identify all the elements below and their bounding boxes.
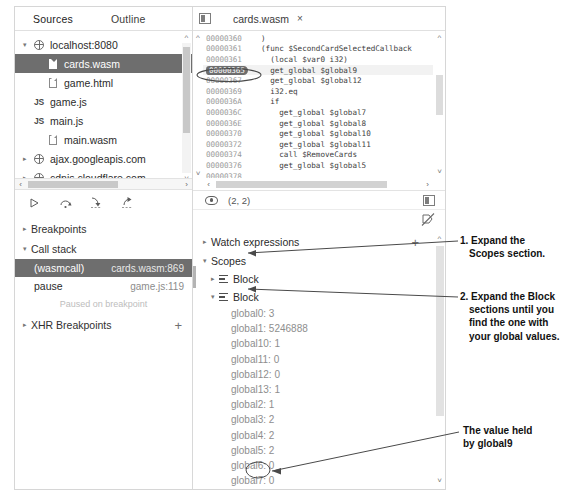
chevron-right-icon[interactable]: ▸	[19, 321, 31, 329]
code-line[interactable]: 00000374 call $RemoveCards	[203, 150, 433, 161]
global-entry[interactable]: global0: 3	[193, 306, 445, 321]
scroll-up-icon[interactable]: ^	[182, 33, 191, 42]
code-line-current[interactable]: 00000365 get_global $global9	[203, 65, 433, 76]
file-tree[interactable]: ▾ localhost:8080 cards.wasm game.html JS…	[15, 31, 192, 189]
code-text: )	[261, 34, 266, 43]
global-entry[interactable]: global8: 0	[193, 488, 445, 489]
tab-sources[interactable]: Sources	[33, 13, 73, 25]
scroll-down-icon[interactable]: ˅	[434, 476, 445, 485]
global-entry[interactable]: global12: 0	[193, 367, 445, 382]
scroll-down-icon[interactable]: ˅	[434, 167, 445, 176]
scopes-header[interactable]: ▾ Scopes	[193, 252, 445, 270]
tree-item-game-js[interactable]: JS game.js	[15, 92, 192, 111]
tab-cards-wasm[interactable]: cards.wasm ×	[219, 13, 303, 25]
chevron-right-icon[interactable]: ▸	[199, 238, 211, 246]
code-line[interactable]: 00000378	[203, 171, 433, 178]
scroll-left-icon[interactable]: ‹	[203, 180, 214, 189]
chevron-right-icon[interactable]: ▸	[19, 155, 31, 163]
tab-outline[interactable]: Outline	[111, 13, 146, 25]
code-line[interactable]: 0000036A if	[203, 97, 433, 108]
global-value: 0	[269, 475, 275, 486]
scope-block-collapsed[interactable]: ▸ Block	[193, 270, 445, 288]
code-line[interactable]: 00000361(func $SecondCardSelectedCallbac…	[203, 44, 433, 55]
chevron-down-icon[interactable]: ▾	[19, 41, 31, 49]
code-line[interactable]: 00000360)	[203, 33, 433, 44]
global-entry[interactable]: global10: 1	[193, 336, 445, 351]
call-stack-location: cards.wasm:869	[111, 263, 184, 274]
editor-horizontal-scrollbar[interactable]: ‹ ›	[203, 179, 433, 190]
code-lines[interactable]: 00000360) 00000361(func $SecondCardSelec…	[203, 33, 433, 178]
code-line[interactable]: 0000036E get_global $global8	[203, 118, 433, 129]
deactivate-breakpoints-icon[interactable]	[421, 213, 435, 231]
global-name: global11	[231, 354, 268, 365]
code-line[interactable]: 00000369 i32.eq	[203, 86, 433, 97]
globals-list: global0: 3 global1: 5246888 global10: 1 …	[193, 306, 445, 489]
code-line[interactable]: 00000367 get_global $global12	[203, 75, 433, 86]
show-navigator-icon[interactable]	[199, 13, 211, 24]
editor-gutter-scrollbar[interactable]: ^ ˅	[193, 31, 203, 190]
tree-item-label: main.wasm	[64, 134, 117, 146]
scroll-right-icon[interactable]: ›	[181, 180, 192, 189]
step-over-icon[interactable]	[58, 196, 72, 210]
code-line[interactable]: 00000361 (local $var0 i32)	[203, 54, 433, 65]
watch-expressions-header[interactable]: ▸ Watch expressions +	[193, 232, 445, 252]
code-line[interactable]: 0000036C get_global $global7	[203, 107, 433, 118]
tree-item-label: main.js	[50, 115, 83, 127]
global-entry[interactable]: global5: 2	[193, 443, 445, 458]
code-address: 00000361	[203, 55, 261, 64]
global-entry[interactable]: global2: 1	[193, 397, 445, 412]
call-stack-section-header[interactable]: ▾ Call stack	[15, 239, 192, 259]
global-entry[interactable]: global13: 1	[193, 382, 445, 397]
chevron-down-icon[interactable]: ▾	[199, 257, 211, 265]
chevron-right-icon[interactable]: ▸	[19, 225, 31, 233]
step-into-icon[interactable]	[89, 196, 103, 210]
global-entry[interactable]: global6: 0	[193, 458, 445, 473]
scope-block-label: Block	[233, 291, 259, 303]
tree-item-ajax-googleapis[interactable]: ▸ ajax.googleapis.com	[15, 149, 192, 168]
tree-item-cards-wasm[interactable]: cards.wasm	[15, 54, 192, 73]
eye-icon[interactable]	[205, 196, 218, 205]
close-icon[interactable]: ×	[297, 13, 303, 24]
show-debugger-sidebar-icon[interactable]	[423, 195, 435, 206]
global-entry[interactable]: global3: 2	[193, 412, 445, 427]
scroll-up-icon[interactable]: ^	[193, 33, 203, 42]
play-icon[interactable]	[27, 196, 41, 210]
chevron-down-icon[interactable]: ▾	[19, 245, 31, 253]
breakpoints-section-header[interactable]: ▸ Breakpoints	[15, 219, 192, 239]
editor-vertical-scrollbar[interactable]: ^ ˅	[434, 31, 445, 190]
tree-item-main-wasm[interactable]: main.wasm	[15, 130, 192, 149]
scope-pane[interactable]: ▸ Watch expressions + ▾ Scopes ▸ Block ▾	[193, 232, 445, 489]
scroll-down-icon[interactable]: ˅	[193, 169, 203, 178]
global-entry[interactable]: global11: 0	[193, 352, 445, 367]
file-tree-vertical-scrollbar[interactable]: ^ ˅	[182, 33, 191, 183]
code-line[interactable]: 00000372 get_global $global11	[203, 139, 433, 150]
file-tree-horizontal-scrollbar[interactable]: ‹ ›	[15, 178, 192, 189]
tree-item-localhost[interactable]: ▾ localhost:8080	[15, 35, 192, 54]
scope-block-expanded[interactable]: ▾ Block	[193, 288, 445, 306]
xhr-breakpoints-section-header[interactable]: ▸ XHR Breakpoints +	[15, 315, 192, 335]
call-stack-frame-pause[interactable]: pause game.js:119	[15, 277, 192, 295]
global-entry[interactable]: global4: 2	[193, 428, 445, 443]
code-text: get_global $global12	[261, 76, 362, 85]
scroll-right-icon[interactable]: ›	[422, 180, 433, 189]
code-line[interactable]: 00000376 get_global $global5	[203, 160, 433, 171]
code-editor[interactable]: ^ ˅ 00000360) 00000361(func $SecondCardS…	[193, 31, 445, 191]
code-address: 0000036E	[203, 119, 261, 128]
file-icon	[45, 59, 61, 69]
global-entry[interactable]: global7: 0	[193, 473, 445, 488]
global-entry[interactable]: global1: 5246888	[193, 321, 445, 336]
tree-item-main-js[interactable]: JS main.js	[15, 111, 192, 130]
call-stack-frame-wasmcall[interactable]: (wasmcall) cards.wasm:869	[15, 259, 192, 277]
scroll-up-icon[interactable]: ^	[434, 234, 445, 243]
chevron-down-icon[interactable]: ▾	[207, 293, 219, 301]
tree-item-game-html[interactable]: game.html	[15, 73, 192, 92]
step-out-icon[interactable]	[120, 196, 134, 210]
scroll-up-icon[interactable]: ^	[434, 33, 445, 42]
code-address: 00000361	[203, 44, 261, 53]
chevron-right-icon[interactable]: ▸	[207, 275, 219, 283]
add-watch-expression-button[interactable]: +	[411, 236, 419, 249]
scroll-left-icon[interactable]: ‹	[15, 180, 26, 189]
code-line[interactable]: 00000370 get_global $global10	[203, 128, 433, 139]
scope-pane-vertical-scrollbar[interactable]: ^ ˅	[434, 232, 445, 489]
add-xhr-breakpoint-button[interactable]: +	[174, 319, 182, 332]
